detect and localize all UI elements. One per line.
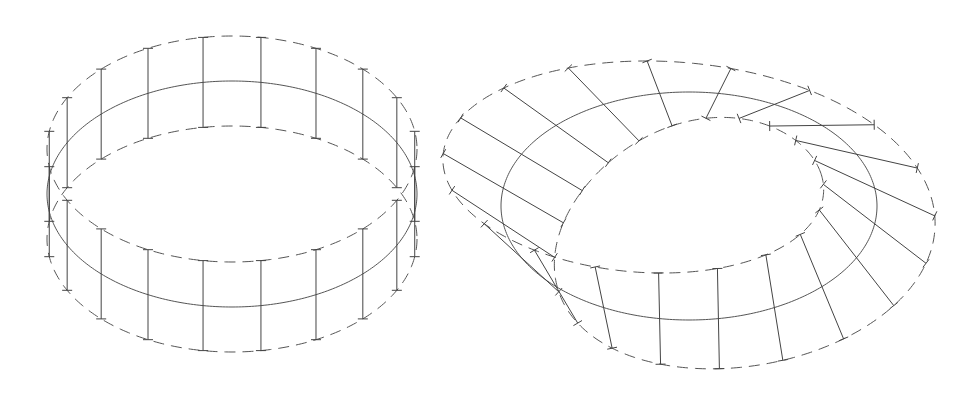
ruling-end-tick xyxy=(580,186,585,195)
ruling-segment xyxy=(534,250,577,323)
ruling-segment xyxy=(766,255,783,360)
ruling-segment xyxy=(796,140,918,168)
mobius-band-figure xyxy=(441,59,937,369)
ruling-segment xyxy=(443,154,563,223)
centerline-ellipse xyxy=(47,81,417,307)
ruling-end-tick xyxy=(561,218,566,227)
ruling-segment xyxy=(800,234,843,338)
ruling-segment xyxy=(484,224,558,292)
ruling-end-tick xyxy=(813,156,817,165)
ruling-segment xyxy=(504,88,609,163)
ruling-end-tick xyxy=(815,207,823,213)
ruling-end-tick xyxy=(573,321,582,326)
ruling-segment xyxy=(568,68,639,141)
top-edge-dashed xyxy=(47,36,417,262)
bottom-edge-dashed xyxy=(47,126,417,352)
ruling-end-tick xyxy=(501,84,507,92)
ruling-segment xyxy=(461,118,583,191)
ruling-segment xyxy=(706,69,731,119)
cylinder-band-figure xyxy=(44,36,419,352)
ruling-end-tick xyxy=(605,159,611,167)
ruling-segment xyxy=(770,125,875,126)
boundary-edge-dashed xyxy=(443,61,935,369)
ruling-end-tick xyxy=(458,114,463,123)
ruling-end-tick xyxy=(726,66,735,70)
ruling-segment xyxy=(823,184,926,263)
ruling-segment xyxy=(647,61,672,126)
ruling-end-tick xyxy=(796,232,805,236)
ruling-end-tick xyxy=(839,337,848,341)
ruling-end-tick xyxy=(890,303,898,309)
ruling-segment xyxy=(595,267,612,348)
ruling-segment xyxy=(819,210,893,306)
ruling-segment xyxy=(452,190,555,257)
ruling-end-tick xyxy=(530,248,539,253)
ruling-segment xyxy=(739,90,810,118)
diagram-canvas xyxy=(0,0,969,398)
diagram-svg xyxy=(0,0,969,398)
ruling-end-tick xyxy=(923,259,929,267)
